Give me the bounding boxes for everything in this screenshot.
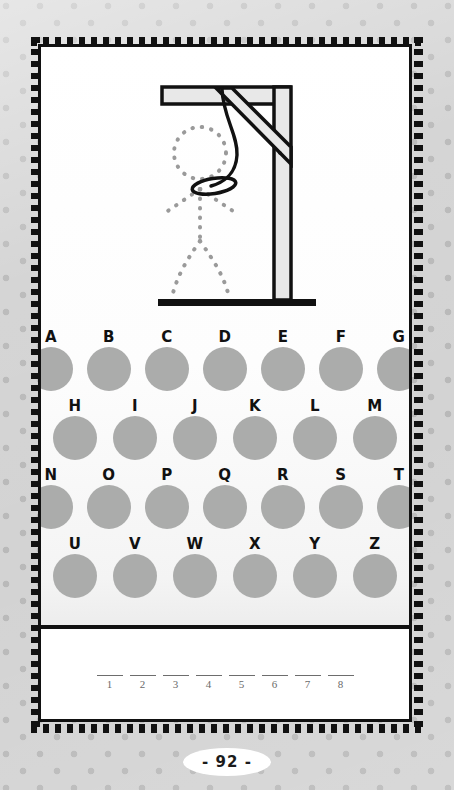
letter-key-label: T (394, 467, 405, 483)
letter-key-label: B (103, 329, 115, 345)
letter-key-y[interactable]: Y (292, 536, 338, 598)
letter-key-label: Z (369, 536, 380, 552)
letter-key-circle[interactable] (53, 416, 97, 460)
page-number-badge: - 92 - (183, 748, 271, 776)
letter-key-circle[interactable] (113, 416, 157, 460)
letter-key-w[interactable]: W (172, 536, 218, 598)
letter-key-m[interactable]: M (352, 398, 398, 460)
answer-blank-4[interactable]: 4 (196, 675, 222, 691)
letter-key-label: I (132, 398, 138, 414)
letter-key-circle[interactable] (353, 554, 397, 598)
letter-key-circle[interactable] (377, 485, 412, 529)
letter-key-circle[interactable] (261, 485, 305, 529)
answer-blank-8[interactable]: 8 (328, 675, 354, 691)
letter-key-circle[interactable] (145, 485, 189, 529)
letter-key-circle[interactable] (203, 347, 247, 391)
stick-figure-dotted (162, 127, 239, 293)
letter-key-circle[interactable] (233, 554, 277, 598)
letter-key-q[interactable]: Q (203, 467, 247, 529)
answer-blank-line[interactable] (295, 675, 321, 676)
letter-key-j[interactable]: J (172, 398, 218, 460)
letter-key-circle[interactable] (293, 554, 337, 598)
answer-blank-line[interactable] (328, 675, 354, 676)
answer-blank-line[interactable] (229, 675, 255, 676)
letter-key-circle[interactable] (203, 485, 247, 529)
letter-key-circle[interactable] (173, 416, 217, 460)
letter-keypad: A B C D E (41, 329, 409, 605)
letter-key-i[interactable]: I (112, 398, 158, 460)
answer-blank-line[interactable] (97, 675, 123, 676)
letter-key-v[interactable]: V (112, 536, 158, 598)
letter-key-f[interactable]: F (319, 329, 363, 391)
answer-blank-number: 7 (305, 678, 311, 691)
page-number-label: - 92 - (202, 753, 252, 771)
letter-key-h[interactable]: H (52, 398, 98, 460)
answer-blank-line[interactable] (163, 675, 189, 676)
letter-key-u[interactable]: U (52, 536, 98, 598)
answer-blank-5[interactable]: 5 (229, 675, 255, 691)
letter-key-b[interactable]: B (87, 329, 131, 391)
answer-blank-2[interactable]: 2 (130, 675, 156, 691)
keypad-row-3: N O P Q R (41, 467, 409, 529)
letter-key-label: V (129, 536, 141, 552)
letter-key-label: H (68, 398, 81, 414)
letter-key-label: D (219, 329, 232, 345)
letter-key-p[interactable]: P (145, 467, 189, 529)
letter-key-o[interactable]: O (87, 467, 131, 529)
letter-key-label: U (69, 536, 82, 552)
letter-key-d[interactable]: D (203, 329, 247, 391)
answer-blank-7[interactable]: 7 (295, 675, 321, 691)
answer-blank-line[interactable] (196, 675, 222, 676)
letter-key-z[interactable]: Z (352, 536, 398, 598)
letter-key-circle[interactable] (145, 347, 189, 391)
letter-key-e[interactable]: E (261, 329, 305, 391)
letter-key-circle[interactable] (261, 347, 305, 391)
letter-key-circle[interactable] (173, 554, 217, 598)
answer-blank-line[interactable] (130, 675, 156, 676)
letter-key-circle[interactable] (38, 347, 73, 391)
letter-key-s[interactable]: S (319, 467, 363, 529)
letter-key-circle[interactable] (53, 554, 97, 598)
answer-panel: 1 2 3 4 5 (41, 629, 409, 719)
answer-blank-3[interactable]: 3 (163, 675, 189, 691)
letter-key-label: F (336, 329, 347, 345)
letter-key-circle[interactable] (293, 416, 337, 460)
answer-blank-number: 3 (173, 678, 179, 691)
letter-key-label: W (186, 536, 203, 552)
letter-key-circle[interactable] (87, 485, 131, 529)
keypad-row-2: H I J K L (41, 398, 409, 460)
letter-key-circle[interactable] (87, 347, 131, 391)
letter-key-circle[interactable] (38, 485, 73, 529)
letter-key-t[interactable]: T (377, 467, 412, 529)
letter-key-c[interactable]: C (145, 329, 189, 391)
letter-key-label: P (161, 467, 173, 483)
answer-blank-6[interactable]: 6 (262, 675, 288, 691)
figure-head (174, 127, 226, 179)
letter-key-n[interactable]: N (38, 467, 73, 529)
letter-key-label: E (278, 329, 289, 345)
letter-key-circle[interactable] (233, 416, 277, 460)
letter-key-circle[interactable] (319, 485, 363, 529)
letter-key-k[interactable]: K (232, 398, 278, 460)
letter-key-label: S (335, 467, 346, 483)
letter-key-l[interactable]: L (292, 398, 338, 460)
letter-key-label: R (277, 467, 289, 483)
letter-key-circle[interactable] (319, 347, 363, 391)
letter-key-a[interactable]: A (38, 329, 73, 391)
letter-key-g[interactable]: G (377, 329, 412, 391)
answer-blank-number: 8 (338, 678, 344, 691)
answer-blank-1[interactable]: 1 (97, 675, 123, 691)
letter-key-label: C (161, 329, 173, 345)
letter-key-circle[interactable] (377, 347, 412, 391)
answer-blank-number: 6 (272, 678, 278, 691)
letter-key-circle[interactable] (353, 416, 397, 460)
letter-key-x[interactable]: X (232, 536, 278, 598)
letter-key-r[interactable]: R (261, 467, 305, 529)
perforation-border-bottom (31, 724, 423, 733)
answer-blank-line[interactable] (262, 675, 288, 676)
letter-key-circle[interactable] (113, 554, 157, 598)
figure-right-leg (200, 241, 228, 293)
page-card: A B C D E (31, 37, 423, 733)
letter-key-label: L (310, 398, 320, 414)
letter-key-label: Q (218, 467, 231, 483)
